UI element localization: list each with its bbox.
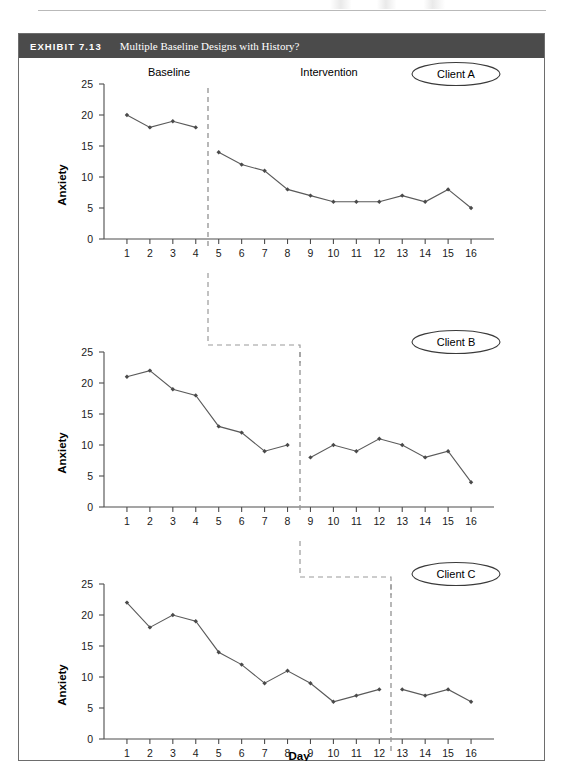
x-tick-label: 15	[442, 247, 454, 259]
data-point	[148, 125, 152, 129]
x-tick-label: 2	[147, 747, 153, 759]
x-tick-label: 10	[328, 247, 340, 259]
client-badge-c: Client C	[412, 563, 500, 586]
x-ticks-b	[127, 507, 471, 512]
x-tick-label: 13	[396, 247, 408, 259]
x-tick-label: 5	[216, 747, 222, 759]
exhibit-box: EXHIBIT 7.13 Multiple Baseline Designs w…	[18, 33, 545, 761]
data-point	[400, 443, 404, 447]
client-badge-a: Client A	[412, 63, 500, 86]
svg-text:5: 5	[87, 702, 93, 714]
svg-text:20: 20	[81, 609, 93, 621]
series-line-b	[127, 371, 471, 483]
y-tick-labels-c: 25 20 15 10 5 0	[81, 578, 93, 745]
data-point	[125, 375, 129, 379]
data-point	[125, 113, 129, 117]
x-tick-label: 1	[124, 247, 130, 259]
x-tick-label: 16	[465, 247, 477, 259]
data-point	[469, 700, 473, 704]
data-point	[308, 455, 312, 459]
data-point	[308, 193, 312, 197]
x-tick-label: 14	[419, 747, 431, 759]
data-point	[331, 200, 335, 204]
y-ticks-b	[99, 352, 104, 507]
x-tick-label: 5	[216, 247, 222, 259]
x-tick-label: 7	[262, 247, 268, 259]
svg-text:0: 0	[87, 233, 93, 245]
svg-text:25: 25	[81, 346, 93, 358]
y-axis-title-c: Anxiety	[56, 664, 68, 706]
client-label-c: Client C	[436, 568, 475, 580]
svg-text:25: 25	[81, 578, 93, 590]
svg-text:25: 25	[81, 78, 93, 90]
svg-text:0: 0	[87, 733, 93, 745]
data-point	[171, 119, 175, 123]
data-point	[400, 193, 404, 197]
data-point	[354, 693, 358, 697]
phase-label-intervention: Intervention	[300, 66, 357, 78]
phase-label-baseline: Baseline	[148, 66, 190, 78]
svg-text:0: 0	[87, 501, 93, 513]
x-tick-label: 11	[351, 515, 362, 527]
x-tick-label: 6	[239, 247, 245, 259]
x-ticks-a	[127, 239, 471, 244]
series-line-c	[127, 603, 471, 702]
exhibit-body: Baseline Intervention Client A Anxiety	[19, 58, 544, 761]
chart-panel-client-c: Client C Anxiety 25 20 15 10	[19, 558, 546, 761]
data-point	[377, 437, 381, 441]
data-point	[446, 687, 450, 691]
data-point	[423, 693, 427, 697]
data-point	[331, 443, 335, 447]
x-tick-label: 6	[239, 515, 245, 527]
series-markers-b	[125, 368, 474, 484]
x-tick-label: 13	[396, 515, 408, 527]
chart-panel-client-b: Client B Anxiety 25 20 15 10	[19, 326, 546, 556]
x-tick-label: 10	[328, 747, 340, 759]
x-tick-label: 15	[442, 515, 454, 527]
y-ticks-a	[99, 84, 104, 239]
data-point	[377, 200, 381, 204]
svg-text:15: 15	[81, 140, 93, 152]
x-tick-label: 4	[193, 747, 199, 759]
exhibit-title: Multiple Baseline Designs with History?	[120, 40, 300, 52]
page-header-rule	[38, 10, 546, 11]
y-axis-title-b: Anxiety	[56, 432, 68, 474]
x-tick-label: 5	[216, 515, 222, 527]
x-tick-label: 11	[351, 247, 362, 259]
data-point	[217, 150, 221, 154]
svg-text:20: 20	[81, 109, 93, 121]
x-tick-label: 14	[419, 515, 431, 527]
series-markers-a	[125, 113, 474, 210]
svg-text:10: 10	[81, 671, 93, 683]
svg-text:5: 5	[87, 470, 93, 482]
x-tick-label: 15	[442, 747, 454, 759]
x-tick-labels-b: 12345678910111213141516	[124, 515, 477, 527]
client-label-a: Client A	[437, 68, 476, 80]
y-axis-title-a: Anxiety	[56, 164, 68, 206]
x-tick-label: 1	[124, 747, 130, 759]
data-point	[194, 125, 198, 129]
data-point	[285, 443, 289, 447]
x-tick-label: 3	[170, 247, 176, 259]
x-tick-label: 7	[262, 515, 268, 527]
y-tick-labels-a: 25 20 15 10 5 0	[81, 78, 93, 245]
exhibit-header: EXHIBIT 7.13 Multiple Baseline Designs w…	[19, 34, 544, 58]
svg-text:15: 15	[81, 408, 93, 420]
client-badge-b: Client B	[412, 331, 500, 354]
x-axis-title: Day	[288, 750, 310, 761]
x-tick-label: 16	[465, 515, 477, 527]
x-tick-label: 12	[373, 515, 385, 527]
x-ticks-c	[127, 739, 471, 744]
x-tick-label: 11	[351, 747, 362, 759]
x-tick-label: 8	[285, 515, 291, 527]
data-point	[239, 162, 243, 166]
x-tick-label: 10	[328, 515, 340, 527]
data-point	[354, 449, 358, 453]
series-line-a	[127, 115, 471, 208]
exhibit-number: EXHIBIT 7.13	[30, 41, 102, 52]
x-tick-labels-a: 12345678910111213141516	[124, 247, 477, 259]
x-tick-label: 12	[373, 747, 385, 759]
y-ticks-c	[99, 584, 104, 739]
x-tick-label: 6	[239, 747, 245, 759]
client-label-b: Client B	[437, 336, 476, 348]
